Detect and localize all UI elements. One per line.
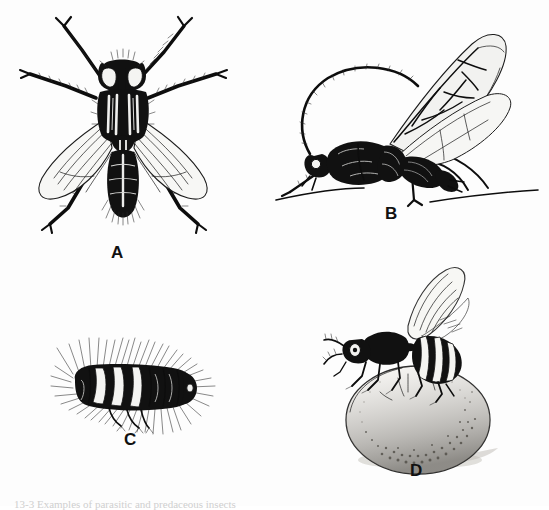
- figure-caption: 13-3 Examples of parasitic and predaceou…: [14, 498, 534, 510]
- figure-label-d: D: [410, 462, 423, 479]
- panel-a-house-fly: A: [8, 8, 243, 238]
- figure-label-c: C: [124, 431, 137, 448]
- figure-label-a: A: [111, 244, 124, 261]
- panel-b-braconid-wasp: B: [272, 10, 544, 210]
- panel-c-hairy-larva: C: [45, 332, 225, 442]
- panel-d-wasp-on-egg: D: [322, 262, 512, 487]
- figure-label-b: B: [385, 205, 398, 222]
- braconid-wasp-drawing: [272, 10, 544, 210]
- wasp-ovipositing-drawing: [322, 262, 512, 487]
- hairy-larva-drawing: [45, 332, 225, 442]
- house-fly-drawing: [8, 8, 243, 238]
